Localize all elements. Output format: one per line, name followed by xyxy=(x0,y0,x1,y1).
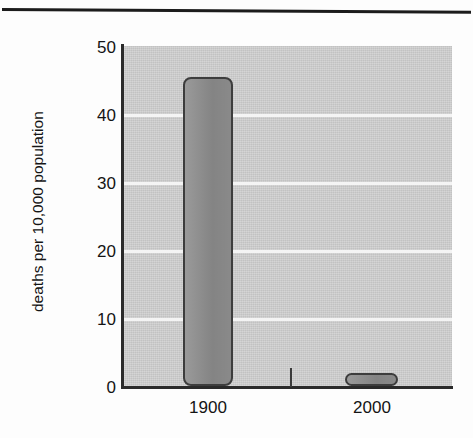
plot-texture xyxy=(124,46,452,386)
bar-chart: 50 40 30 20 10 0 1900 2000 deaths per 10… xyxy=(0,18,473,438)
y-tick-label-50: 50 xyxy=(86,39,116,56)
x-tick-label-2000: 2000 xyxy=(332,399,412,416)
y-tick-label-30: 30 xyxy=(86,175,116,192)
y-axis-line xyxy=(121,44,124,388)
x-axis-mid-tick xyxy=(290,368,292,387)
page-divider-rule xyxy=(2,8,471,14)
gridline-20 xyxy=(124,250,452,253)
bar-2000[interactable] xyxy=(345,373,398,386)
y-tick-label-20: 20 xyxy=(86,243,116,260)
plot-area xyxy=(124,46,452,386)
gridline-10 xyxy=(124,318,452,321)
page-canvas: 50 40 30 20 10 0 1900 2000 deaths per 10… xyxy=(0,0,473,438)
bar-1900[interactable] xyxy=(183,77,233,386)
gridline-40 xyxy=(124,114,452,117)
y-axis-title: deaths per 10,000 population xyxy=(29,112,47,312)
y-tick-label-group: 50 40 30 20 10 0 xyxy=(84,18,116,438)
gridline-30 xyxy=(124,182,452,185)
x-tick-label-1900: 1900 xyxy=(168,399,248,416)
x-axis-line xyxy=(121,386,453,389)
y-tick-label-10: 10 xyxy=(86,311,116,328)
y-tick-label-0: 0 xyxy=(86,379,116,396)
y-tick-label-40: 40 xyxy=(86,107,116,124)
